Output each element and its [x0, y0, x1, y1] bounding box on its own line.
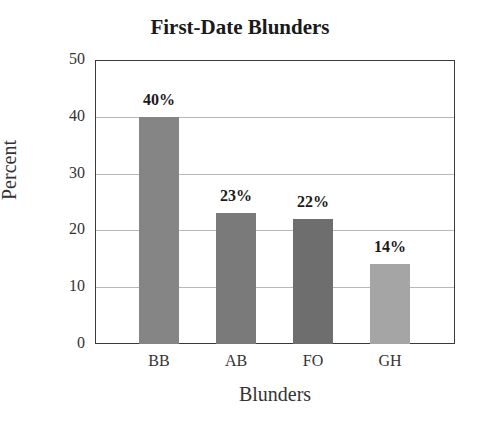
bar-fo [293, 219, 333, 344]
y-tick-label: 10 [55, 277, 85, 295]
bar-ab [216, 213, 256, 344]
x-axis-title: Blunders [0, 383, 480, 406]
bar-value-label: 23% [206, 187, 266, 205]
y-tick-label: 0 [55, 334, 85, 352]
y-tick-label: 40 [55, 107, 85, 125]
y-axis-title: Percent [0, 140, 21, 200]
bar-value-label: 14% [360, 238, 420, 256]
x-tick-label: GH [360, 352, 420, 370]
y-tick-label: 30 [55, 164, 85, 182]
bar-value-label: 22% [283, 193, 343, 211]
x-tick-label: AB [206, 352, 266, 370]
bar-gh [370, 264, 410, 344]
bar-value-label: 40% [129, 91, 189, 109]
y-tick-label: 20 [55, 220, 85, 238]
x-tick-label: BB [129, 352, 189, 370]
x-tick-label: FO [283, 352, 343, 370]
bar-bb [139, 117, 179, 344]
y-tick-label: 50 [55, 50, 85, 68]
chart-title: First-Date Blunders [0, 15, 480, 40]
